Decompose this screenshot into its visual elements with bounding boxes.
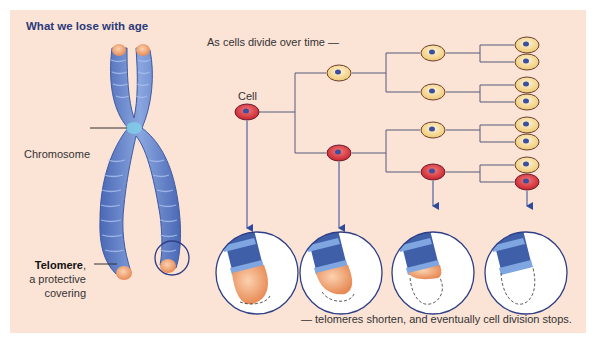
telomere-magnified-1 xyxy=(216,222,298,314)
chromosome-illustration xyxy=(100,44,189,280)
centromere xyxy=(126,122,142,134)
cell-red xyxy=(235,104,259,120)
telomere-magnified-4 xyxy=(485,222,567,314)
telomere-magnified-2 xyxy=(300,222,382,314)
division-arrows xyxy=(247,121,527,228)
telomere-magnified-3 xyxy=(392,222,474,314)
diagram-artwork xyxy=(0,0,593,345)
cells xyxy=(235,37,539,190)
division-tree-lines xyxy=(256,45,514,182)
